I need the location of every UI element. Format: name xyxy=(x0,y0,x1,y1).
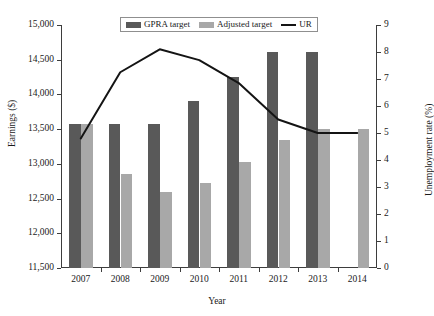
y-axis-right-tick xyxy=(377,52,381,53)
legend-entry-label: GPRA target xyxy=(144,20,190,29)
legend-entry-adjusted-target[interactable]: Adjusted target xyxy=(199,20,272,29)
x-axis-tick-label: 2009 xyxy=(150,275,169,285)
legend-entry-gpra-target[interactable]: GPRA target xyxy=(126,20,190,29)
y-axis-right-tick xyxy=(377,268,381,269)
y-axis-right-tick xyxy=(377,160,381,161)
y-axis-right-tick xyxy=(377,187,381,188)
x-axis-tick-label: 2008 xyxy=(111,275,130,285)
x-axis-tick-label: 2014 xyxy=(348,275,367,285)
y-axis-right-tick-label: 2 xyxy=(384,209,389,219)
x-axis-tick-label: 2010 xyxy=(190,275,209,285)
y-axis-left-tick-label: 14,500 xyxy=(28,55,54,65)
x-axis-tick-label: 2012 xyxy=(269,275,288,285)
x-axis-tick-label: 2007 xyxy=(71,275,90,285)
cropped-text-artifact: · xyxy=(0,0,434,9)
x-axis-tick-label: 2013 xyxy=(308,275,327,285)
cropped-text-line: · xyxy=(0,0,3,4)
x-axis-tick xyxy=(259,268,260,272)
y-axis-right-tick xyxy=(377,214,381,215)
y-axis-right-tick xyxy=(377,79,381,80)
y-axis-right-tick-label: 7 xyxy=(384,74,389,84)
x-axis-tick-label: 2011 xyxy=(229,275,248,285)
y-axis-right-tick-label: 9 xyxy=(384,20,389,30)
y-axis-left-tick-label: 11,500 xyxy=(28,263,54,273)
y-axis-left-tick-label: 12,500 xyxy=(28,194,54,204)
y-axis-right-tick-label: 4 xyxy=(384,155,389,165)
y-axis-left-tick-label: 13,000 xyxy=(28,159,54,169)
legend-bar-swatch-icon xyxy=(199,22,214,28)
legend-entry-ur[interactable]: UR xyxy=(281,20,312,29)
y-axis-left-tick-label: 14,000 xyxy=(28,90,54,100)
x-axis-tick xyxy=(101,268,102,272)
y-axis-left-tick-label: 13,500 xyxy=(28,124,54,134)
y-axis-right-tick-label: 6 xyxy=(384,101,389,111)
y-axis-right-tick xyxy=(377,133,381,134)
x-axis-tick xyxy=(338,268,339,272)
x-axis-tick xyxy=(180,268,181,272)
y-axis-right-tick-label: 8 xyxy=(384,47,389,57)
x-axis-tick xyxy=(298,268,299,272)
y-axis-left-tick-label: 15,000 xyxy=(28,20,54,30)
chart-legend: GPRA targetAdjusted targetUR xyxy=(120,17,318,32)
y-axis-right-tick-label: 3 xyxy=(384,182,389,192)
y-axis-left-tick-label: 12,000 xyxy=(28,229,54,239)
legend-entry-label: UR xyxy=(299,20,312,29)
y-axis-right-tick-label: 0 xyxy=(384,263,389,273)
ur-line-series xyxy=(61,25,377,268)
y-axis-right-tick xyxy=(377,106,381,107)
y-axis-right-tick-label: 5 xyxy=(384,128,389,138)
plot-area: 11,50012,00012,50013,00013,50014,00014,5… xyxy=(61,25,377,268)
y-axis-right-tick xyxy=(377,25,381,26)
y-axis-right-tick xyxy=(377,241,381,242)
ur-line-path xyxy=(81,49,358,138)
chart-figure: · Earnings ($) Unemployment rate (%) Yea… xyxy=(0,0,434,316)
y-axis-right-title: Unemployment rate (%) xyxy=(424,104,434,196)
legend-entry-label: Adjusted target xyxy=(217,20,272,29)
legend-bar-swatch-icon xyxy=(126,22,141,28)
x-axis-tick xyxy=(140,268,141,272)
y-axis-left-title: Earnings ($) xyxy=(7,100,17,147)
x-axis-tick xyxy=(219,268,220,272)
y-axis-right-tick-label: 1 xyxy=(384,236,389,246)
legend-line-swatch-icon xyxy=(281,24,296,26)
y-axis-left-tick xyxy=(57,268,61,269)
x-axis-title: Year xyxy=(0,296,434,306)
